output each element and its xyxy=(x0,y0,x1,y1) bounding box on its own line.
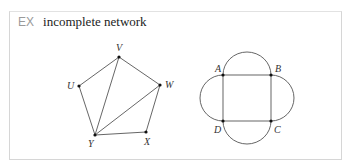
vertex-label-u: U xyxy=(67,80,75,91)
vertex-label-w: W xyxy=(165,79,175,90)
vertex-label-d: D xyxy=(213,124,222,135)
vertex-label-a: A xyxy=(214,63,222,74)
vertex-label-c: C xyxy=(274,124,281,135)
vertex-label-x: X xyxy=(143,136,151,147)
pentagon-graph xyxy=(79,57,160,135)
square-vertices xyxy=(221,73,272,122)
pentagon-vertices xyxy=(77,55,161,136)
vertex-label-v: V xyxy=(116,42,124,53)
vertex-label-y: Y xyxy=(88,138,95,149)
vertex-label-b: B xyxy=(275,63,281,74)
network-figures: V U W Y X A B D C xyxy=(0,0,355,168)
